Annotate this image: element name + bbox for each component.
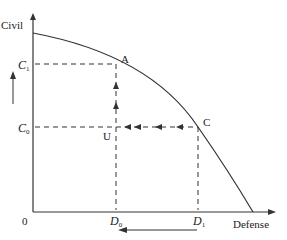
point-u-label: U bbox=[103, 130, 111, 142]
y-tick-c1: C1 bbox=[18, 58, 30, 73]
arrow-up-icon bbox=[10, 71, 16, 79]
x-axis bbox=[33, 209, 276, 215]
civil-increase-arrow bbox=[10, 71, 16, 104]
x-axis-arrowhead-icon bbox=[268, 209, 276, 215]
y-axis-arrowhead-icon bbox=[30, 13, 36, 20]
x-tick-d1: D1 bbox=[192, 214, 206, 229]
x-axis-label: Defense bbox=[233, 218, 269, 230]
y-tick-c0: C0 bbox=[18, 121, 30, 136]
x-tick-d0: D0 bbox=[109, 214, 123, 229]
ppf-diagram: Civil Defense 0 C1 C0 D0 D1 A U C bbox=[0, 0, 287, 240]
point-c-label: C bbox=[203, 116, 210, 128]
y-axis-label: Civil bbox=[1, 19, 23, 31]
point-a-label: A bbox=[121, 53, 129, 65]
origin-label: 0 bbox=[22, 215, 28, 227]
defense-decrease-arrow bbox=[118, 227, 197, 233]
y-axis bbox=[30, 13, 36, 212]
ppf-curve bbox=[33, 33, 253, 212]
